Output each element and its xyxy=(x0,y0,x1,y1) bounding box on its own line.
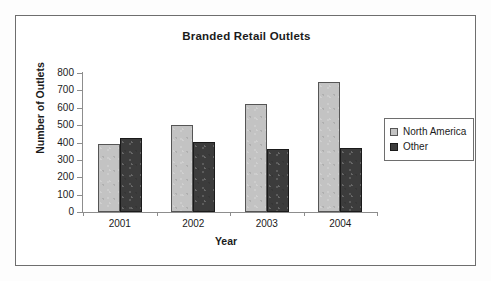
y-tick-mark xyxy=(77,212,82,213)
legend-label: North America xyxy=(403,126,466,137)
y-tick-label: 100 xyxy=(28,190,74,200)
y-tick-label-wrap: 500 xyxy=(16,120,74,130)
legend-label: Other xyxy=(403,141,428,152)
bar-2004-other xyxy=(340,148,362,212)
y-tick-mark xyxy=(77,108,82,109)
y-tick-label: 300 xyxy=(28,155,74,165)
chart-frame: Branded Retail Outlets Number of Outlets… xyxy=(15,15,476,266)
x-tick-mark xyxy=(230,212,231,216)
y-tick-label-wrap: 200 xyxy=(16,172,74,182)
y-tick-mark xyxy=(77,143,82,144)
x-tick-label-2001: 2001 xyxy=(83,218,157,229)
x-tick-mark xyxy=(377,212,378,216)
y-tick-label: 500 xyxy=(28,120,74,130)
y-tick-label: 400 xyxy=(28,138,74,148)
y-tick-mark xyxy=(77,90,82,91)
legend-item-other: Other xyxy=(390,139,468,154)
plot-area xyxy=(83,73,377,212)
bar-2004-north-america xyxy=(318,82,340,212)
bar-2001-other xyxy=(120,138,142,212)
y-tick-label: 700 xyxy=(28,85,74,95)
x-tick-label-2002: 2002 xyxy=(156,218,230,229)
bar-2003-other xyxy=(267,149,289,212)
x-tick-label-2004: 2004 xyxy=(303,218,377,229)
y-tick-label: 600 xyxy=(28,103,74,113)
y-tick-label: 200 xyxy=(28,172,74,182)
dark-gray-swatch xyxy=(390,143,398,151)
y-tick-label: 0 xyxy=(28,207,74,217)
legend-item-north-america: North America xyxy=(390,124,468,139)
bar-2002-north-america xyxy=(171,125,193,212)
y-tick-label-wrap: 400 xyxy=(16,138,74,148)
x-tick-mark xyxy=(304,212,305,216)
y-tick-label-wrap: 0 xyxy=(16,207,74,217)
bar-2001-north-america xyxy=(98,144,120,212)
chart-figure: Branded Retail Outlets Number of Outlets… xyxy=(0,0,491,281)
y-tick-label-wrap: 300 xyxy=(16,155,74,165)
y-tick-label-wrap: 800 xyxy=(16,68,74,78)
x-axis-title: Year xyxy=(76,235,376,247)
x-tick-mark xyxy=(157,212,158,216)
x-tick-label-2003: 2003 xyxy=(230,218,304,229)
bar-2002-other xyxy=(193,142,215,212)
y-tick-label-wrap: 700 xyxy=(16,85,74,95)
y-tick-mark xyxy=(77,177,82,178)
y-tick-label-wrap: 100 xyxy=(16,190,74,200)
y-tick-mark xyxy=(77,73,82,74)
y-tick-mark xyxy=(77,160,82,161)
light-gray-swatch xyxy=(390,128,398,136)
y-tick-label-wrap: 600 xyxy=(16,103,74,113)
chart-legend: North AmericaOther xyxy=(384,118,474,161)
y-tick-mark xyxy=(77,125,82,126)
y-tick-label: 800 xyxy=(28,68,74,78)
chart-title: Branded Retail Outlets xyxy=(16,30,477,42)
x-tick-mark xyxy=(83,212,84,216)
bar-2003-north-america xyxy=(245,104,267,212)
y-tick-mark xyxy=(77,195,82,196)
